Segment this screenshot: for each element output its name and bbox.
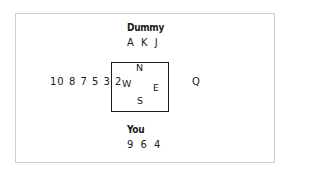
north-cards: A K J [127, 37, 160, 48]
compass-south: S [137, 95, 143, 106]
south-cards: 9 6 4 [127, 139, 162, 150]
compass-table: N W E S [111, 62, 169, 112]
south-label: You [127, 124, 144, 135]
compass-west: W [122, 78, 131, 89]
compass-north: N [136, 62, 143, 73]
east-cards: Q [192, 76, 202, 87]
north-label: Dummy [127, 22, 164, 33]
compass-east: E [153, 82, 159, 93]
